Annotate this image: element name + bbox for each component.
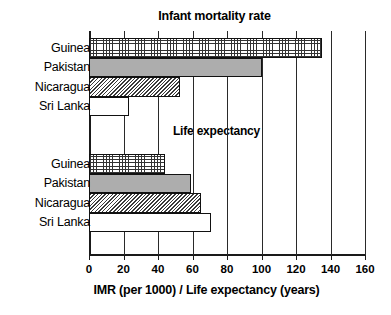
tick-140 [331, 255, 332, 260]
tick-20 [124, 255, 125, 260]
bar-infant-mortality-rate-nicaragua [89, 77, 180, 97]
x-tick-label-140: 140 [321, 263, 340, 275]
gridline-160 [365, 31, 366, 255]
plot-area [89, 31, 365, 255]
x-tick-label-120: 120 [286, 263, 305, 275]
category-label-nicaragua-1: Nicaragua [35, 80, 90, 94]
bar-life-expectancy-pakistan [89, 174, 191, 194]
bar-infant-mortality-rate-sri-lanka [89, 97, 129, 117]
x-tick-label-100: 100 [252, 263, 271, 275]
tick-100 [262, 255, 263, 260]
x-tick-label-80: 80 [221, 263, 234, 275]
x-tick-label-60: 60 [186, 263, 199, 275]
category-label-sri-lanka-2: Sri Lanka [39, 215, 90, 229]
bar-life-expectancy-guinea [89, 154, 165, 174]
bar-life-expectancy-sri-lanka [89, 213, 211, 233]
tick-40 [158, 255, 159, 260]
x-tick-label-160: 160 [355, 263, 374, 275]
category-label-sri-lanka-1: Sri Lanka [39, 99, 90, 113]
gridline-100 [262, 31, 263, 255]
tick-80 [227, 255, 228, 260]
gridline-140 [331, 31, 332, 255]
category-label-pakistan-1: Pakistan [44, 60, 90, 74]
x-tick-label-40: 40 [152, 263, 165, 275]
tick-60 [193, 255, 194, 260]
tick-160 [365, 255, 366, 260]
tick-0 [89, 255, 90, 260]
x-tick-label-0: 0 [86, 263, 92, 275]
category-label-pakistan-2: Pakistan [44, 176, 90, 190]
x-axis-title: IMR (per 1000) / Life expectancy (years) [0, 283, 391, 297]
category-label-guinea-1: Guinea [51, 41, 90, 55]
bar-life-expectancy-nicaragua [89, 193, 201, 213]
bar-infant-mortality-rate-pakistan [89, 58, 262, 78]
chart-figure: Infant mortality rate Life expectancy 02… [0, 0, 391, 315]
gridline-120 [296, 31, 297, 255]
chart-title: Infant mortality rate [0, 9, 391, 23]
category-label-guinea-2: Guinea [51, 157, 90, 171]
category-label-nicaragua-2: Nicaragua [35, 196, 90, 210]
x-tick-label-20: 20 [117, 263, 130, 275]
tick-120 [296, 255, 297, 260]
bar-infant-mortality-rate-guinea [89, 38, 322, 58]
